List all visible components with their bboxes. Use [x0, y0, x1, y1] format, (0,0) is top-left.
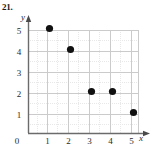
scatter-plot-figure: 21. [0, 0, 159, 159]
data-point [130, 109, 137, 116]
y-tick-label-4: 4 [13, 47, 25, 57]
y-tick-label-3: 3 [13, 68, 25, 78]
data-point [46, 25, 53, 32]
data-points [46, 25, 137, 116]
axis-lines [28, 20, 146, 134]
x-axis-arrowhead [143, 131, 150, 136]
minor-gridlines-horizontal [28, 41, 138, 125]
major-gridlines-vertical [48, 30, 139, 133]
major-gridlines-horizontal [28, 31, 139, 115]
x-tick-label-4: 4 [105, 136, 117, 146]
y-tick-label-2: 2 [13, 89, 25, 99]
x-axis-label: x [139, 134, 143, 143]
data-point [109, 88, 116, 95]
y-axis-label: y [21, 13, 25, 22]
origin-tick-label: 0 [11, 136, 23, 146]
minor-gridlines-vertical [38, 30, 121, 133]
x-tick-label-1: 1 [42, 136, 54, 146]
data-point [67, 46, 74, 53]
x-tick-label-2: 2 [63, 136, 75, 146]
y-tick-label-1: 1 [13, 110, 25, 120]
data-point [88, 88, 95, 95]
y-axis-arrowhead [26, 15, 31, 22]
y-tick-label-5: 5 [13, 26, 25, 36]
x-tick-label-5: 5 [126, 136, 138, 146]
x-tick-label-3: 3 [84, 136, 96, 146]
